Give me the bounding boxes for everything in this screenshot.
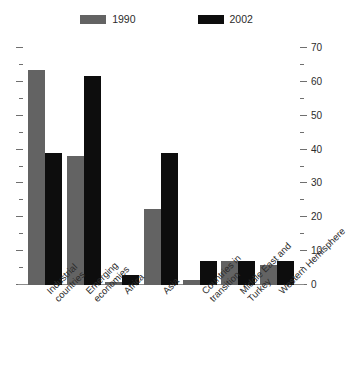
y-tick-major-10 [300, 250, 307, 251]
bar-group [219, 48, 258, 285]
y-tick-major-50 [16, 115, 23, 116]
bar-1990 [28, 70, 45, 285]
bar-group [142, 48, 181, 285]
category-cell: Africa [103, 287, 142, 376]
y-tick-major-50 [300, 115, 307, 116]
y-tick-minor-35 [300, 166, 304, 167]
category-cell: Countries in transition [180, 287, 219, 376]
y-tick-label-0: 0 [311, 280, 317, 290]
y-tick-label-60: 60 [311, 77, 322, 87]
y-tick-minor-15 [300, 233, 304, 234]
y-tick-major-40 [16, 149, 23, 150]
category-cell: Asia [142, 287, 181, 376]
y-tick-label-20: 20 [311, 212, 322, 222]
category-cell: Emerging economies [65, 287, 104, 376]
legend-swatch-1990 [80, 15, 106, 24]
bar-groups [26, 48, 296, 285]
category-cell: Industrial countries [26, 287, 65, 376]
y-tick-minor-5 [19, 267, 23, 268]
y-tick-minor-65 [19, 64, 23, 65]
bar-1990 [183, 280, 200, 285]
y-tick-minor-45 [19, 132, 23, 133]
plot-area [26, 48, 296, 285]
y-tick-minor-45 [300, 132, 304, 133]
chart-legend: 1990 2002 [0, 14, 333, 25]
y-tick-major-30 [300, 182, 307, 183]
y-tick-label-40: 40 [311, 145, 322, 155]
y-tick-label-70: 70 [311, 43, 322, 53]
bar-2002 [161, 153, 178, 285]
legend-label-2002: 2002 [230, 14, 253, 25]
bar-group [103, 48, 142, 285]
y-axis-right: 010203040506070 [296, 48, 297, 285]
bar-2002 [84, 76, 101, 285]
y-tick-minor-15 [19, 233, 23, 234]
bar-1990 [144, 209, 161, 285]
bar-group [180, 48, 219, 285]
y-tick-major-20 [300, 216, 307, 217]
y-tick-minor-25 [19, 199, 23, 200]
y-tick-minor-55 [19, 98, 23, 99]
y-tick-major-70 [300, 47, 307, 48]
x-axis-category-labels: Industrial countriesEmerging economiesAf… [26, 287, 296, 376]
y-tick-major-60 [300, 81, 307, 82]
bar-group [65, 48, 104, 285]
legend-item-1990: 1990 [80, 14, 135, 25]
y-tick-major-10 [16, 250, 23, 251]
y-tick-label-30: 30 [311, 178, 322, 188]
category-cell: Western Hemisphere [257, 287, 296, 376]
y-tick-label-50: 50 [311, 111, 322, 121]
y-tick-major-60 [16, 81, 23, 82]
bar-group [26, 48, 65, 285]
legend-item-2002: 2002 [198, 14, 253, 25]
bar-2002 [45, 153, 62, 285]
category-cell: Middle East and Turkey [219, 287, 258, 376]
y-tick-major-20 [16, 216, 23, 217]
legend-swatch-2002 [198, 15, 224, 24]
y-tick-major-40 [300, 149, 307, 150]
y-tick-minor-25 [300, 199, 304, 200]
y-tick-major-30 [16, 182, 23, 183]
y-tick-minor-55 [300, 98, 304, 99]
y-tick-major-70 [16, 47, 23, 48]
legend-label-1990: 1990 [112, 14, 135, 25]
y-tick-minor-65 [300, 64, 304, 65]
y-tick-minor-35 [19, 166, 23, 167]
